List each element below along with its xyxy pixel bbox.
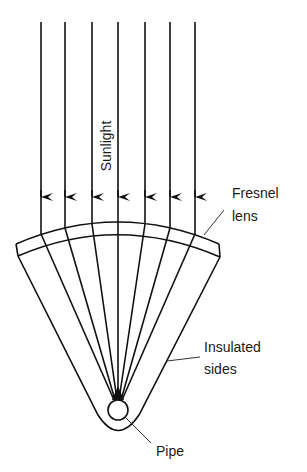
pipe-label: Pipe	[156, 443, 184, 459]
insulated-leader-line	[167, 357, 200, 361]
fresnel-label-line1: Fresnel	[232, 185, 279, 201]
insulated-label-line1: Insulated	[204, 339, 261, 355]
fresnel-collector-diagram: Sunlight Fresnel lens Insulated sides Pi…	[0, 0, 307, 472]
fresnel-leader-line	[204, 210, 224, 235]
pipe-leader-line	[126, 418, 151, 443]
insulated-sides	[18, 256, 220, 431]
insulated-label-line2: sides	[204, 361, 237, 377]
sunlight-rays	[41, 22, 195, 234]
sunlight-label: Sunlight	[98, 121, 114, 172]
refracted-rays	[41, 222, 195, 400]
pipe	[108, 400, 128, 420]
fresnel-label-line2: lens	[232, 208, 258, 224]
